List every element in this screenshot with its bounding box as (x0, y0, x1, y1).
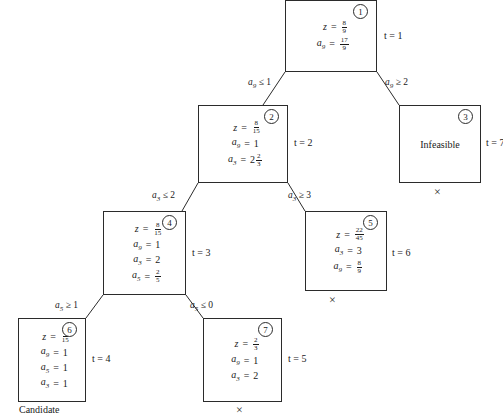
tree-node-3-t-label: t = 7 (486, 137, 503, 148)
branch-relation: ≥ (66, 300, 71, 310)
row-rhs: 3 (357, 246, 362, 257)
row-lhs: z (327, 230, 340, 241)
tree-node-6-row-3: a3 = 1 (36, 377, 68, 390)
branch-and-bound-diagram: z = 8 9 a9 = 17 9 (0, 0, 503, 420)
branch-value: 3 (306, 190, 311, 200)
row-rhs: 1 (155, 240, 160, 251)
row-eq: = (327, 22, 341, 33)
tree-node-7-badge: 7 (258, 322, 273, 337)
tree-node-5-row-2: a9 = 8 9 (329, 260, 363, 275)
row-lhs: a9 (227, 137, 240, 150)
row-lhs: z (126, 224, 139, 235)
row-rhs: 2 5 (154, 269, 162, 284)
branch-subscript: 9 (253, 82, 257, 90)
fraction: 22 45 (355, 227, 364, 242)
row-eq: = (238, 339, 252, 350)
row-lhs: a3 (330, 244, 343, 257)
row-eq: = (142, 255, 156, 266)
tree-node-1-row-0: z = 8 9 (314, 20, 348, 35)
branch-label-a5-ge-1: a5 ≥ 1 (55, 300, 78, 313)
tree-node-5-row-1: a3 = 3 (330, 244, 362, 257)
fraction-denominator: 5 (155, 277, 161, 284)
row-lhs: a9 (227, 354, 240, 367)
branch-relation: ≤ (259, 77, 264, 87)
row-eq: = (49, 379, 63, 390)
branch-value: 1 (73, 300, 78, 310)
row-eq: = (240, 356, 254, 367)
row-rhs: 1 (63, 348, 68, 359)
tree-node-7-row-2: a3 = 2 (227, 370, 259, 383)
fraction-denominator: 15 (61, 337, 70, 344)
fraction: 2 3 (256, 153, 262, 168)
row-eq: = (342, 262, 356, 273)
fraction: 8 15 (252, 120, 261, 135)
branch-label-a9-le-1: a9 ≤ 1 (248, 77, 271, 90)
tree-node-4-row-3: a5 = 2 5 (127, 269, 161, 284)
row-eq: = (325, 39, 339, 50)
row-eq: = (237, 123, 251, 134)
tree-node-6-row-2: a5 = 1 (36, 362, 68, 375)
branch-value: 2 (170, 190, 175, 200)
branch-label-a5-le-0: a5 ≤ 0 (190, 300, 213, 313)
branch-relation: ≥ (299, 190, 304, 200)
row-rhs: 2 2 3 (250, 153, 263, 168)
tree-node-5-badge: 5 (363, 215, 378, 230)
branch-label-a3-ge-3: a3 ≥ 3 (288, 190, 311, 203)
row-lhs: z (314, 22, 327, 33)
row-lhs: z (225, 339, 238, 350)
branch-label-a3-le-2: a3 ≤ 2 (152, 190, 175, 203)
row-lhs: a3 (129, 254, 142, 267)
row-lhs: a5 (127, 270, 140, 283)
fraction: 8 15 (153, 222, 162, 237)
tree-node-7-prune-mark: × (236, 403, 243, 418)
fraction-denominator: 3 (256, 161, 262, 168)
tree-node-2-row-0: z = 8 15 (224, 120, 262, 135)
tree-node-7-row-1: a9 = 1 (227, 354, 259, 367)
tree-node-4-row-0: z = 8 15 (126, 222, 164, 237)
row-rhs: 8 9 (341, 20, 349, 35)
row-lhs: a9 (329, 261, 342, 274)
fraction-denominator: 9 (342, 45, 348, 52)
tree-node-4-row-2: a3 = 2 (129, 254, 161, 267)
branch-subscript: 9 (390, 82, 394, 90)
branch-value: 1 (266, 77, 271, 87)
row-lhs: z (224, 123, 237, 134)
row-eq: = (240, 371, 254, 382)
branch-subscript: 3 (293, 195, 297, 203)
tree-node-4-t-label: t = 3 (192, 247, 210, 258)
tree-node-4-badge: 4 (162, 215, 177, 230)
tree-node-7-t-label: t = 5 (288, 353, 306, 364)
row-lhs: a9 (129, 239, 142, 252)
row-eq: = (343, 246, 357, 257)
fraction: 8 9 (357, 260, 363, 275)
tree-node-2-badge: 2 (264, 109, 279, 124)
tree-node-5-prune-mark: × (329, 293, 336, 308)
tree-node-5-t-label: t = 6 (392, 247, 410, 258)
tree-node-2-t-label: t = 2 (294, 137, 312, 148)
row-eq: = (46, 332, 60, 343)
branch-relation: ≥ (396, 77, 401, 87)
row-rhs: 2 (155, 255, 160, 266)
tree-node-1-t-label: t = 1 (384, 30, 402, 41)
row-lhs: z (33, 332, 46, 343)
mixed-whole: 2 (250, 155, 255, 166)
row-rhs: 22 45 (354, 227, 365, 242)
row-rhs: 1 (253, 356, 258, 367)
row-eq: = (140, 272, 154, 283)
tree-node-1-row-1: a9 = 17 9 (312, 37, 350, 52)
branch-subscript: 5 (60, 305, 64, 313)
tree-node-7-row-0: z = 2 3 (225, 337, 259, 352)
row-rhs: 17 9 (339, 37, 350, 52)
row-rhs: 1 (63, 379, 68, 390)
row-rhs: 2 3 (252, 337, 260, 352)
branch-value: 2 (403, 77, 408, 87)
row-rhs: 8 15 (251, 120, 262, 135)
fraction: 17 9 (340, 37, 349, 52)
tree-node-6-row-1: a9 = 1 (36, 346, 68, 359)
tree-node-2-row-1: a9 = 1 (227, 137, 259, 150)
row-eq: = (139, 224, 153, 235)
tree-node-3-badge: 3 (458, 109, 473, 124)
fraction-denominator: 9 (342, 28, 348, 35)
row-eq: = (340, 230, 354, 241)
row-rhs: 1 (254, 139, 259, 150)
